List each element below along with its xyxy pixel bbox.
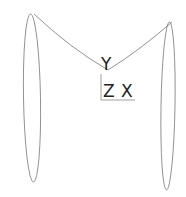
axis-z-label: Z (103, 83, 115, 100)
wireframe-model (0, 0, 186, 197)
cad-viewport[interactable]: Y Z X (0, 0, 186, 197)
axis-x-label: X (121, 83, 133, 100)
axis-y-label: Y (101, 56, 111, 73)
left-ellipse (22, 14, 42, 182)
right-ellipse (160, 22, 177, 190)
